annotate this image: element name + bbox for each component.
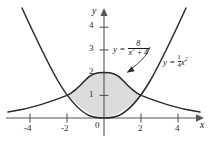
curve-label-bell-denominator: x2 + 4 [128,49,149,57]
y-tick-label-4: 4 [89,21,94,30]
curve-label-bell: y = 8 x2 + 4 [113,40,149,58]
plot-canvas [0,0,213,143]
parabola-exponent: 2 [185,56,188,62]
den-rest: + 4 [137,48,148,57]
x-tick-label-neg2: -2 [61,124,69,133]
den-exponent: 2 [132,48,134,53]
curve-label-bell-fraction: 8 x2 + 4 [128,40,149,58]
x-tick-label-2: 2 [138,124,143,133]
curve-label-parabola: y = 1 4 x2 [163,54,188,69]
y-tick-label-2: 2 [89,67,94,76]
curve-label-parabola-lhs: y = [163,57,175,67]
y-tick-label-3: 3 [89,44,94,53]
curve-label-bell-lhs: y = [113,44,125,54]
x-tick-label-neg4: -4 [24,124,32,133]
math-figure-area-between-curves: y x 0 -4 -2 2 4 1 2 3 4 y = 8 x2 + 4 y =… [0,0,213,143]
y-axis-name: y [92,6,96,16]
x-tick-label-4: 4 [175,124,180,133]
origin-label: 0 [95,121,100,130]
y-tick-label-1: 1 [89,90,94,99]
x-axis-name: x [200,120,204,130]
